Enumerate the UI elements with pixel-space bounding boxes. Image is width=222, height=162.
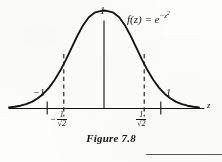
neg-one-tick-label: −1 <box>33 88 45 98</box>
neg-inv-sqrt2-label: − 1 √2 <box>50 111 67 128</box>
z-axis-label: z <box>207 101 211 110</box>
exponent-power: 2 <box>167 10 170 16</box>
formula-exponent: −z2 <box>159 12 169 20</box>
fraction-numerator: 1 <box>57 111 67 119</box>
figure-illustration: 1 −1 1 z f(z) = e−z2 − 1 √2 1 √2 Figure … <box>0 0 222 162</box>
page-rule-divider <box>146 154 222 155</box>
neg-inv-sqrt2-minus: − <box>50 115 57 124</box>
neg-inv-sqrt2-fraction: 1 √2 <box>57 111 67 128</box>
formula-lhs: f(z) = <box>127 13 155 25</box>
fraction-numerator: 1 <box>136 111 146 119</box>
peak-value-label: 1 <box>100 6 105 16</box>
pos-inv-sqrt2-label: 1 √2 <box>136 111 146 128</box>
pos-one-tick-label: 1 <box>166 88 171 98</box>
formula-annotation: f(z) = e−z2 <box>127 11 170 25</box>
pos-inv-sqrt2-fraction: 1 √2 <box>136 111 146 128</box>
fraction-denominator: √2 <box>57 119 67 128</box>
fraction-denominator: √2 <box>136 119 146 128</box>
figure-caption: Figure 7.8 <box>0 132 222 144</box>
